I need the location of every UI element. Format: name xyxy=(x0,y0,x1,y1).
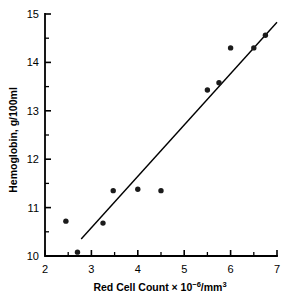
plot-canvas: 234567 101112131415 Red Cell Count × 10−… xyxy=(0,0,292,304)
data-point-5 xyxy=(158,188,163,193)
data-point-1 xyxy=(75,249,80,254)
y-tick-label-11: 11 xyxy=(28,202,39,214)
data-point-3 xyxy=(111,188,116,193)
x-tick-label-5: 5 xyxy=(181,263,187,275)
y-tick-label-13: 13 xyxy=(27,105,39,117)
x-axis-tick-labels: 234567 xyxy=(42,263,280,275)
data-point-2 xyxy=(100,220,105,225)
x-tick-label-6: 6 xyxy=(228,263,234,275)
y-tick-label-10: 10 xyxy=(27,250,39,262)
x-tick-label-3: 3 xyxy=(88,263,94,275)
axes-group: 234567 101112131415 xyxy=(27,8,280,275)
x-tick-label-7: 7 xyxy=(274,263,280,275)
axis-lines xyxy=(45,14,277,256)
data-point-4 xyxy=(135,187,140,192)
y-tick-label-15: 15 xyxy=(27,8,39,20)
data-group xyxy=(63,22,277,255)
x-tick-label-2: 2 xyxy=(42,263,48,275)
data-point-9 xyxy=(251,45,256,50)
data-point-7 xyxy=(216,80,221,85)
regression-line xyxy=(81,22,277,239)
y-axis-title: Hemoglobin, g/100ml xyxy=(7,87,19,193)
x-axis-title: Red Cell Count × 10−6/mm3 xyxy=(93,280,226,293)
data-point-8 xyxy=(228,45,233,50)
x-tick-label-4: 4 xyxy=(135,263,141,275)
y-axis-tick-labels: 101112131415 xyxy=(27,8,39,262)
data-point-0 xyxy=(63,218,68,223)
data-point-6 xyxy=(205,87,210,92)
y-tick-label-12: 12 xyxy=(27,153,39,165)
data-point-10 xyxy=(263,33,268,38)
y-tick-label-14: 14 xyxy=(27,56,39,68)
scatter-plot-figure: 234567 101112131415 Red Cell Count × 10−… xyxy=(0,0,292,304)
